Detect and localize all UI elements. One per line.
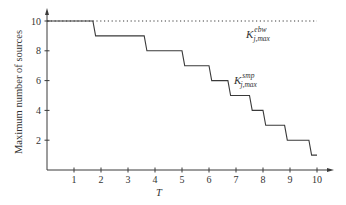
x-tick-label: 5 — [180, 174, 185, 185]
y-tick-label: 2 — [36, 135, 41, 146]
y-tick-label: 4 — [36, 105, 41, 116]
annotation-ebw: Kebwj,max — [245, 25, 271, 43]
y-tick-label: 8 — [36, 45, 41, 56]
y-axis-title: Maximum number of sources — [13, 30, 24, 154]
x-tick-label: 2 — [99, 174, 104, 185]
x-axis-title: T — [156, 187, 163, 198]
annotation-smp: Ksmpj,max — [233, 71, 258, 89]
y-tick-label: 6 — [36, 75, 41, 86]
smp-step-line — [47, 21, 317, 155]
y-tick-label: 10 — [31, 16, 41, 27]
x-tick-label: 4 — [153, 174, 158, 185]
x-tick-label: 8 — [261, 174, 266, 185]
y-axis-arrow-icon — [45, 8, 49, 15]
x-axis-arrow-icon — [327, 168, 334, 172]
x-tick-label: 6 — [207, 174, 212, 185]
axes — [45, 8, 334, 172]
step-chart: 12345678910 246810 Kebwj,max Ksmpj,max T… — [0, 0, 346, 205]
x-tick-label: 9 — [288, 174, 293, 185]
x-tick-label: 10 — [312, 174, 322, 185]
x-tick-label: 1 — [72, 174, 77, 185]
x-tick-label: 7 — [234, 174, 239, 185]
x-tick-label: 3 — [126, 174, 131, 185]
